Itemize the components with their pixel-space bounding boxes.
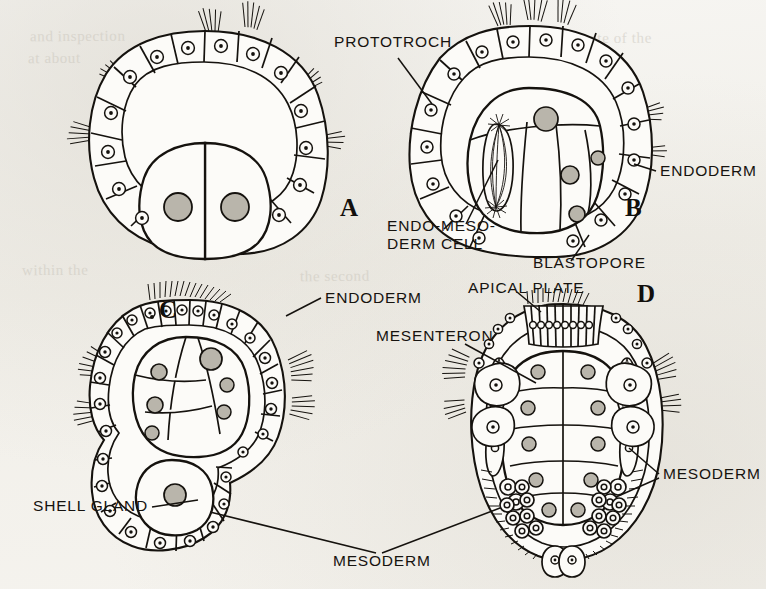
label-mesenteron: MESENTERON — [376, 327, 493, 344]
panel-c-nucleus-1 — [200, 348, 222, 370]
figure-root: and inspectionthe rate of theat aboutof … — [0, 0, 766, 589]
panel-a-nucleus-left — [164, 193, 192, 221]
panel-letter-c-mark — [150, 315, 154, 319]
label-endoderm-c: ENDODERM — [325, 289, 422, 306]
label-endo-mesoderm-cell-line1: ENDO-MESO- — [387, 217, 496, 234]
label-endo-mesoderm-cell-line2: DERM CELL — [387, 235, 483, 252]
leader-mesoderm-c-right — [382, 508, 500, 553]
panel-b-nucleus-1 — [534, 107, 558, 131]
panel-b-nucleus-2 — [561, 166, 579, 184]
leader-mesoderm-c-left — [210, 512, 376, 553]
panel-c-nucleus-6 — [217, 405, 231, 419]
panel-c-nucleus-4 — [145, 426, 159, 440]
label-endoderm-b: ENDODERM — [660, 162, 757, 179]
panel-d-posterior-cells — [542, 546, 585, 577]
panel-letter-b: B — [625, 194, 642, 221]
label-apical-plate: APICAL PLATE — [468, 279, 584, 296]
panel-a-drawing — [66, 1, 346, 259]
panel-a-nucleus-right — [221, 193, 249, 221]
label-blastopore: BLASTOPORE — [533, 254, 646, 271]
label-prototroch: PROTOTROCH — [334, 33, 452, 50]
label-mesoderm-d: MESODERM — [663, 465, 761, 482]
panel-letter-c: C — [159, 296, 177, 323]
panel-c-nucleus-3 — [147, 397, 163, 413]
leader-endoderm-c — [286, 298, 321, 316]
panel-c-nucleus-2 — [151, 364, 167, 380]
label-shell-gland: SHELL GLAND — [33, 497, 148, 514]
panel-letter-a: A — [340, 194, 358, 221]
panel-c-nucleus-5 — [220, 378, 234, 392]
panel-letter-d: D — [637, 280, 655, 307]
panel-b-nucleus-3 — [569, 206, 585, 222]
label-mesoderm-c: MESODERM — [333, 552, 431, 569]
panel-b-nucleus-4 — [591, 151, 605, 165]
diagram-plate: PROTOTROCH ENDODERM ENDO-MESO- DERM CELL… — [0, 0, 766, 589]
